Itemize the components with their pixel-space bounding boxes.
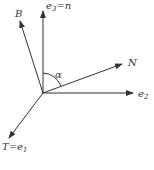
n-label: N (127, 57, 138, 68)
e3-label: e3=n (46, 0, 71, 13)
b-vector (20, 21, 43, 93)
b-label: B (14, 8, 22, 19)
e2-label: e2 (138, 88, 149, 101)
alpha-label: α (55, 69, 62, 80)
frenet-frame-diagram: e3=n B N e2 T=e1 α (0, 0, 154, 170)
t-label: T=e1 (2, 141, 27, 154)
t-vector (9, 93, 43, 138)
